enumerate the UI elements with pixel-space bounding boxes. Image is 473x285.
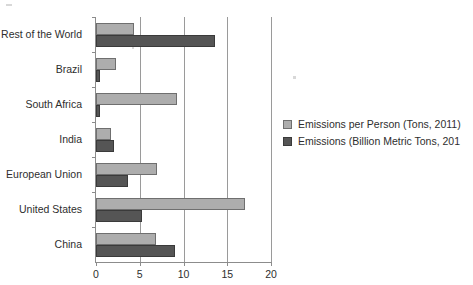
bar [96,245,175,257]
category-label: South Africa [0,87,88,122]
bar [96,58,116,70]
bar-group [96,122,271,157]
legend-swatch [283,137,292,146]
bar [96,175,128,187]
bar [96,140,114,152]
bar [96,198,245,210]
value-tick-label: 0 [93,268,99,280]
plot-area: 05101520 [96,17,271,262]
bar-group [96,192,271,227]
category-axis: Rest of the WorldBrazilSouth AfricaIndia… [0,17,88,262]
gridline [271,17,272,262]
bar-group [96,17,271,52]
value-tick-label: 10 [178,268,190,280]
bar [96,128,111,140]
category-label: Brazil [0,52,88,87]
legend-swatch [283,120,292,129]
category-label: Rest of the World [0,17,88,52]
scan-artifact [6,4,12,6]
bar [96,105,100,117]
value-tick-label: 15 [221,268,233,280]
bar-group [96,52,271,87]
bar [96,233,156,245]
emissions-bar-chart: Rest of the WorldBrazilSouth AfricaIndia… [0,0,473,285]
category-label: United States [0,192,88,227]
category-label: India [0,122,88,157]
value-tick [96,262,97,266]
value-tick [140,262,141,266]
value-tick-label: 5 [137,268,143,280]
bar-group [96,157,271,192]
legend-label: Emissions (Billion Metric Tons, 201 [298,136,460,148]
bar [96,23,134,35]
category-label: China [0,227,88,262]
chart-legend: Emissions per Person (Tons, 2011)Emissio… [283,116,473,150]
legend-item: Emissions (Billion Metric Tons, 201 [283,133,473,150]
bar [96,70,100,82]
bar-group [96,87,271,122]
bar [96,210,142,222]
legend-label: Emissions per Person (Tons, 2011) [298,119,461,131]
bar-group [96,227,271,262]
bar [96,35,215,47]
value-tick [271,262,272,266]
value-tick-label: 20 [265,268,277,280]
value-tick [184,262,185,266]
legend-item: Emissions per Person (Tons, 2011) [283,116,473,133]
bar [96,93,177,105]
category-label: European Union [0,157,88,192]
value-tick [227,262,228,266]
bar [96,163,157,175]
scan-artifact [293,76,296,79]
